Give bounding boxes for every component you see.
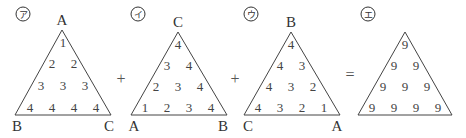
cell: 4 bbox=[197, 79, 204, 94]
cell: 3 bbox=[82, 78, 89, 93]
vertex-right: C bbox=[104, 118, 114, 134]
triangle-label: ア bbox=[19, 10, 28, 20]
cell: 4 bbox=[186, 58, 193, 73]
cell: 3 bbox=[175, 79, 182, 94]
cell: 1 bbox=[321, 100, 328, 115]
plus-operator: + bbox=[230, 70, 239, 87]
cell: 9 bbox=[391, 58, 398, 73]
vertex-left: A bbox=[129, 118, 140, 134]
cell: 9 bbox=[435, 100, 442, 115]
triangle-e: エ 9 9 9 9 9 9 9 9 9 9 bbox=[358, 7, 452, 115]
cell: 3 bbox=[277, 100, 284, 115]
cell: 9 bbox=[391, 100, 398, 115]
vertex-right: A bbox=[332, 118, 343, 134]
cell: 3 bbox=[288, 79, 295, 94]
cell: 2 bbox=[71, 56, 78, 71]
vertex-left: C bbox=[243, 118, 253, 134]
cell: 4 bbox=[27, 100, 34, 115]
cell: 3 bbox=[164, 58, 171, 73]
cell: 1 bbox=[60, 35, 67, 50]
cell: 3 bbox=[186, 100, 193, 115]
cell: 3 bbox=[60, 78, 67, 93]
cell: 9 bbox=[424, 79, 431, 94]
cell: 4 bbox=[266, 79, 273, 94]
vertex-top: A bbox=[57, 12, 68, 28]
triangle-u: ウ B C A 4 4 3 4 3 2 4 3 2 1 bbox=[243, 7, 343, 134]
vertex-left: B bbox=[12, 118, 22, 134]
cell: 1 bbox=[142, 100, 149, 115]
cell: 4 bbox=[277, 58, 284, 73]
cell: 4 bbox=[175, 37, 182, 52]
cell: 9 bbox=[369, 100, 376, 115]
triangle-label: エ bbox=[364, 10, 373, 20]
cell: 9 bbox=[402, 37, 409, 52]
cell: 2 bbox=[49, 56, 56, 71]
triangle-a: ア A B C 1 2 2 3 3 3 4 4 4 4 bbox=[12, 7, 114, 134]
cell: 9 bbox=[380, 79, 387, 94]
cell: 3 bbox=[299, 58, 306, 73]
cell: 4 bbox=[71, 100, 78, 115]
cell: 4 bbox=[208, 100, 215, 115]
cell: 9 bbox=[413, 58, 420, 73]
cell: 4 bbox=[49, 100, 56, 115]
cell: 3 bbox=[38, 78, 45, 93]
vertex-top: C bbox=[173, 14, 183, 30]
triangle-label: イ bbox=[134, 10, 143, 20]
cell: 4 bbox=[93, 100, 100, 115]
cell: 4 bbox=[288, 37, 295, 52]
vertex-right: B bbox=[218, 118, 228, 134]
cell: 2 bbox=[153, 79, 160, 94]
cell: 4 bbox=[255, 100, 262, 115]
cell: 2 bbox=[310, 79, 317, 94]
vertex-top: B bbox=[286, 14, 296, 30]
cell: 2 bbox=[299, 100, 306, 115]
plus-operator: + bbox=[116, 70, 125, 87]
cell: 9 bbox=[413, 100, 420, 115]
cell: 9 bbox=[402, 79, 409, 94]
cell: 2 bbox=[164, 100, 171, 115]
triangle-label: ウ bbox=[247, 10, 256, 20]
equals-operator: = bbox=[345, 66, 354, 83]
triangle-i: イ C A B 4 3 4 2 3 4 1 2 3 4 bbox=[129, 7, 228, 134]
triangle-sum-diagram: ア A B C 1 2 2 3 3 3 4 4 4 4 + イ C A B 4 … bbox=[0, 0, 466, 138]
